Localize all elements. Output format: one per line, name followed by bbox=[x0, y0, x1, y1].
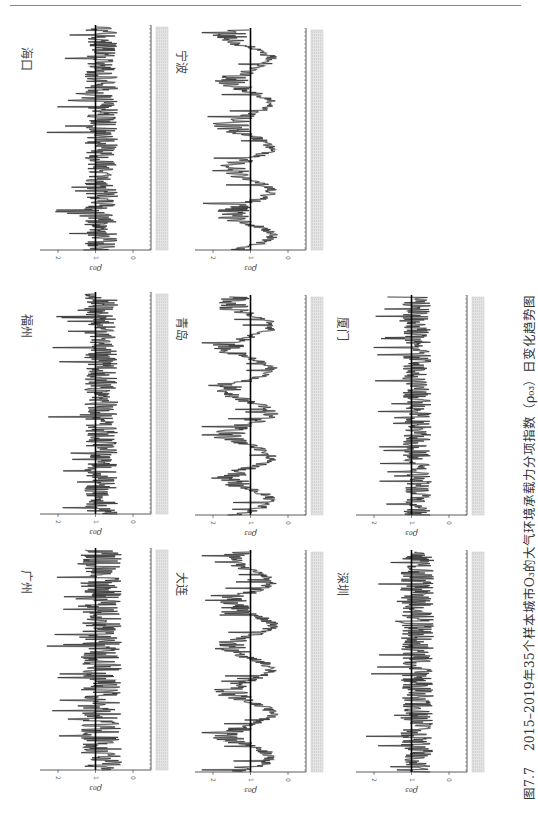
axis-label: ρ₀₃ bbox=[89, 784, 103, 794]
city-title: 大连 bbox=[174, 572, 191, 596]
tick-label: 2 bbox=[55, 256, 62, 260]
line-chart: 210ρ₀₃ bbox=[193, 550, 333, 802]
tick-label: 2 bbox=[371, 778, 378, 782]
date-labels bbox=[156, 27, 168, 250]
line-chart: 210ρ₀₃ bbox=[354, 550, 494, 802]
axis-label: ρ₀₃ bbox=[405, 786, 419, 796]
line-chart: 210ρ₀₃ bbox=[354, 295, 494, 545]
tick-label: 2 bbox=[55, 776, 62, 780]
line-chart: 210ρ₀₃ bbox=[193, 295, 333, 545]
series-line bbox=[202, 297, 278, 515]
tick-label: 0 bbox=[446, 521, 453, 525]
axis-label: ρ₀₃ bbox=[89, 264, 103, 274]
chart-panel-6: 210ρ₀₃大连 bbox=[193, 550, 333, 802]
chart-panel-1: 210ρ₀₃宁波 bbox=[193, 28, 333, 280]
tick-label: 1 bbox=[93, 776, 100, 780]
tick-label: 1 bbox=[409, 778, 416, 782]
city-title: 广州 bbox=[19, 570, 36, 594]
tick-label: 1 bbox=[248, 521, 255, 525]
tick-label: 2 bbox=[371, 521, 378, 525]
tick-label: 2 bbox=[210, 256, 217, 260]
chart-panel-2: 210ρ₀₃福州 bbox=[38, 292, 178, 544]
axis-label: ρ₀₃ bbox=[244, 529, 258, 539]
line-chart: 210ρ₀₃ bbox=[38, 25, 178, 280]
tick-label: 1 bbox=[93, 520, 100, 524]
tick-label: 2 bbox=[210, 778, 217, 782]
chart-panel-4: 210ρ₀₃厦门 bbox=[354, 295, 494, 545]
header-rule bbox=[10, 5, 521, 6]
city-title: 海口 bbox=[19, 47, 36, 71]
tick-label: 1 bbox=[248, 778, 255, 782]
line-chart: 210ρ₀₃ bbox=[38, 548, 178, 800]
chart-panel-0: 210ρ₀₃海口 bbox=[38, 25, 178, 280]
city-title: 深圳 bbox=[335, 572, 352, 596]
line-chart: 210ρ₀₃ bbox=[193, 28, 333, 280]
chart-panel-7: 210ρ₀₃深圳 bbox=[354, 550, 494, 802]
tick-label: 0 bbox=[130, 776, 137, 780]
figure-number: 图7.7 bbox=[522, 767, 537, 800]
axis-label: ρ₀₃ bbox=[89, 528, 103, 538]
city-title: 厦门 bbox=[335, 317, 352, 341]
tick-label: 0 bbox=[130, 256, 137, 260]
tick-label: 1 bbox=[248, 256, 255, 260]
chart-panel-5: 210ρ₀₃广州 bbox=[38, 548, 178, 800]
caption-text: 2015–2019年35个样本城市O₃的大气环境承载力分项指数（ρ₀₃）日变化趋… bbox=[522, 295, 537, 751]
tick-label: 0 bbox=[285, 521, 292, 525]
figure-caption: 图7.72015–2019年35个样本城市O₃的大气环境承载力分项指数（ρ₀₃）… bbox=[519, 295, 538, 800]
tick-label: 1 bbox=[409, 521, 416, 525]
axis-label: ρ₀₃ bbox=[244, 786, 258, 796]
tick-label: 0 bbox=[130, 520, 137, 524]
tick-label: 2 bbox=[55, 520, 62, 524]
city-title: 青岛 bbox=[174, 317, 191, 341]
tick-label: 0 bbox=[446, 778, 453, 782]
city-title: 福州 bbox=[19, 314, 36, 338]
tick-label: 0 bbox=[285, 256, 292, 260]
tick-label: 2 bbox=[210, 521, 217, 525]
tick-label: 0 bbox=[285, 778, 292, 782]
tick-label: 1 bbox=[93, 256, 100, 260]
city-title: 宁波 bbox=[174, 50, 191, 74]
chart-panel-3: 210ρ₀₃青岛 bbox=[193, 295, 333, 545]
axis-label: ρ₀₃ bbox=[244, 264, 258, 274]
axis-label: ρ₀₃ bbox=[405, 529, 419, 539]
line-chart: 210ρ₀₃ bbox=[38, 292, 178, 544]
